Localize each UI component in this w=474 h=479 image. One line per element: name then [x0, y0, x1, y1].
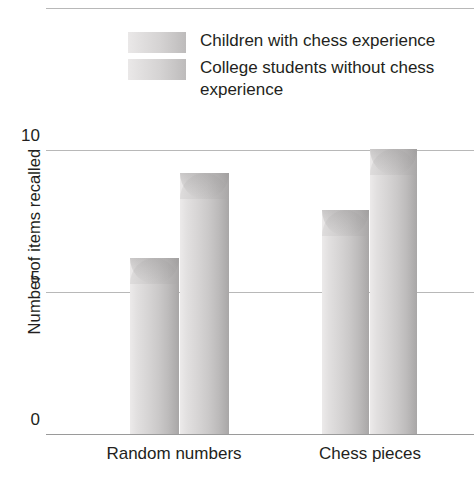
bar-chart: Number of items recalled 15 10 5 0: [0, 0, 474, 479]
gridline-15: 15: [46, 8, 474, 9]
bar-random-numbers-college: [180, 173, 229, 434]
legend-swatch-children: [128, 32, 186, 53]
legend-item-college: College students without chess experienc…: [128, 57, 474, 101]
axis-baseline-0: 0: [46, 434, 474, 435]
y-tick-label-0: 0: [31, 410, 40, 430]
bar-chess-pieces-children: [322, 210, 369, 434]
chart-legend: Children with chess experience College s…: [128, 30, 474, 105]
legend-swatch-college: [128, 59, 186, 80]
x-axis-label-chess-pieces: Chess pieces: [290, 444, 450, 464]
bar-random-numbers-children: [130, 258, 179, 434]
legend-label-children: Children with chess experience: [200, 30, 435, 52]
y-tick-label-15: 15: [21, 0, 40, 4]
x-axis-label-random-numbers: Random numbers: [84, 444, 264, 464]
y-tick-label-5: 5: [31, 268, 40, 288]
legend-item-children: Children with chess experience: [128, 30, 474, 53]
bar-chess-pieces-college: [370, 149, 417, 434]
y-tick-label-10: 10: [21, 126, 40, 146]
legend-label-college: College students without chess experienc…: [200, 57, 474, 101]
y-axis-title: Number of items recalled: [25, 112, 44, 372]
